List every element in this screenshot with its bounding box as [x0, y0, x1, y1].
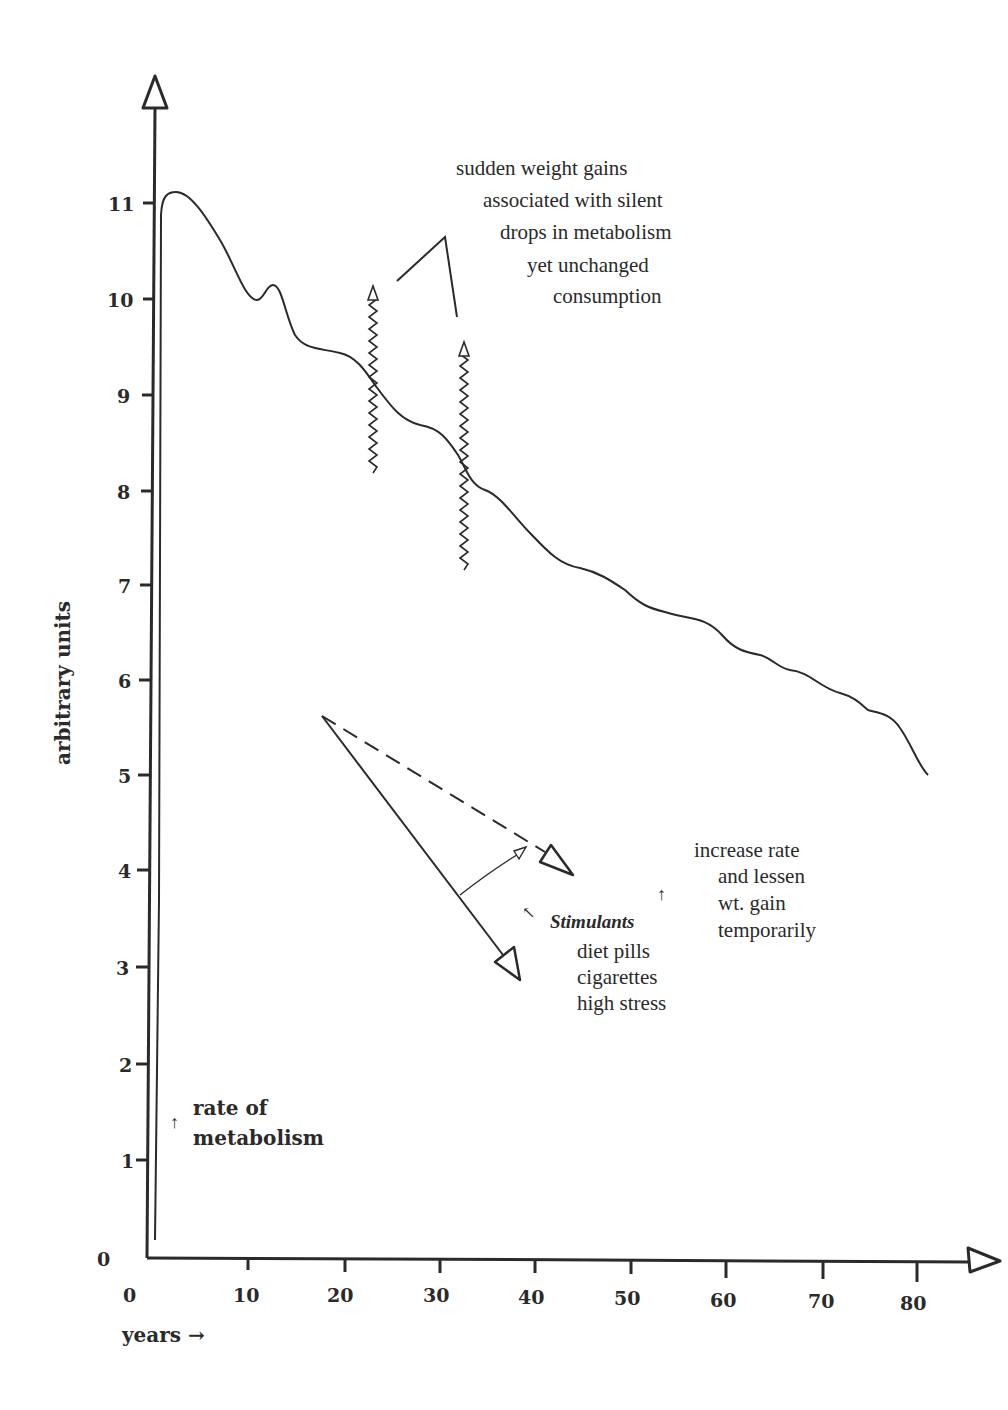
x-tick-label: 10: [233, 1284, 259, 1306]
annotation-line: yet unchanged: [527, 253, 649, 277]
x-tick-label: 80: [900, 1292, 926, 1314]
rotation-arc-icon: [460, 853, 520, 895]
x-tick-label: 30: [423, 1284, 449, 1306]
annotation-line: drops in metabolism: [500, 220, 672, 244]
weight-gain-wavy-arrows: [368, 286, 469, 570]
y-tick-label: 8: [117, 481, 130, 503]
y-axis-label: arbitrary units: [51, 601, 75, 765]
stimulant-item: diet pills: [577, 939, 650, 963]
y-tick-label: 10: [107, 289, 133, 311]
solid-arrowhead-icon: [495, 947, 520, 980]
x-tick-label: 50: [614, 1287, 640, 1309]
metabolism-curve: [155, 192, 928, 1240]
arc-arrowhead-icon: [514, 847, 526, 859]
x-axis-label: years →: [121, 1323, 205, 1347]
up-arrow-icon: ↑: [657, 884, 666, 904]
annotation-line: associated with silent: [483, 188, 663, 212]
y-axis: 0 1 2 3 4 5 6 7 8 9 10 11 arbitrary unit…: [51, 76, 167, 1270]
x-tick-label: 40: [518, 1286, 544, 1308]
y-tick-label: 2: [119, 1054, 132, 1076]
x-tick-label: 70: [808, 1290, 834, 1312]
dashed-arrowhead-icon: [540, 845, 573, 875]
x-axis-arrowhead-icon: [968, 1248, 1000, 1272]
y-tick-label: 6: [118, 670, 131, 692]
effect-line: and lessen: [718, 864, 805, 888]
y-tick-label: 4: [118, 860, 131, 882]
wavy-arrowhead-icon: [368, 286, 378, 300]
stimulant-item: cigarettes: [577, 965, 657, 989]
y-tick-label: 11: [108, 193, 134, 215]
effect-line: temporarily: [718, 918, 816, 942]
x-tick-label: 60: [710, 1289, 736, 1311]
stimulants-heading: Stimulants: [550, 911, 635, 932]
pointer-arrow-icon: ↖: [522, 904, 535, 921]
stimulants-annotation: ↖ Stimulants diet pills cigarettes high …: [522, 904, 666, 1015]
y-tick-label: 3: [116, 957, 129, 979]
stimulants-arrows: [322, 716, 573, 980]
legend-line: metabolism: [193, 1126, 324, 1150]
y-tick-label: 0: [97, 1248, 110, 1270]
stimulant-item: high stress: [577, 991, 666, 1015]
effect-annotation: ↑ increase rate and lessen wt. gain temp…: [657, 838, 816, 942]
y-tick-label: 9: [117, 385, 130, 407]
y-axis-arrowhead-icon: [143, 76, 167, 108]
up-arrow-icon: ↑: [170, 1112, 179, 1132]
y-tick-label: 7: [118, 575, 131, 597]
x-tick-label: 0: [123, 1284, 136, 1306]
effect-line: increase rate: [694, 838, 800, 862]
wavy-arrowhead-icon: [459, 342, 469, 356]
x-axis: 0 10 20 30 40 50 60 70 80 years →: [121, 1248, 1000, 1347]
metabolism-chart: 0 1 2 3 4 5 6 7 8 9 10 11 arbitrary unit…: [0, 0, 1008, 1410]
legend-line: rate of: [193, 1096, 269, 1120]
caret-pointer-icon: [397, 237, 457, 317]
y-tick-label: 5: [118, 765, 131, 787]
effect-line: wt. gain: [718, 891, 786, 915]
curve-legend: ↑ rate of metabolism: [170, 1096, 324, 1150]
x-tick-label: 20: [327, 1284, 353, 1306]
annotation-line: consumption: [553, 284, 662, 308]
y-tick-label: 1: [121, 1150, 134, 1172]
annotation-line: sudden weight gains: [456, 156, 627, 180]
wavy-arrow-icon: [460, 354, 468, 570]
weight-gain-annotation: sudden weight gains associated with sile…: [456, 156, 672, 308]
